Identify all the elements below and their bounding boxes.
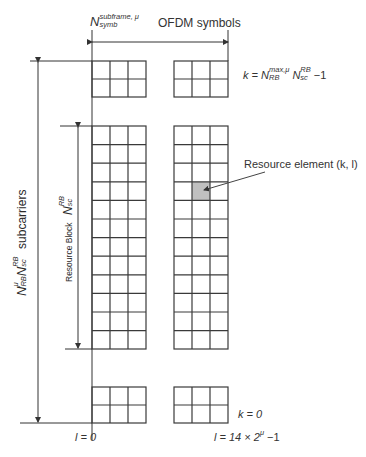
ofdm-symbols-arrow — [92, 30, 228, 61]
resource-element-label: Resource element (k, l) — [244, 158, 358, 170]
k-max-label: k = Nmax,μRB NRBsc −1 — [243, 68, 326, 84]
bottom-block-right — [174, 387, 228, 423]
symbols-per-subframe-label: Nsubframe, μsymb — [90, 14, 139, 31]
subcarriers-arrow — [20, 61, 92, 423]
resource-block-right — [174, 126, 228, 349]
ofdm-symbols-label: OFDM symbols — [158, 16, 241, 30]
top-block-right — [174, 61, 228, 97]
resource-block-left — [92, 126, 146, 349]
bottom-block-left — [92, 387, 146, 423]
subcarriers-label: NμRBNRBsc subcarriers — [12, 190, 30, 296]
resource-element-pointer-arrow — [204, 172, 265, 190]
grid-blocks — [92, 61, 228, 423]
resource-element-highlight — [192, 182, 210, 201]
top-block-left — [92, 61, 146, 97]
resource-block-label: Resource Block NRBsc — [58, 196, 76, 282]
l-zero-label: l = 0 — [75, 431, 96, 443]
k-zero-label: k = 0 — [238, 408, 262, 420]
l-max-label: l = 14 × 2μ −1 — [214, 431, 280, 443]
